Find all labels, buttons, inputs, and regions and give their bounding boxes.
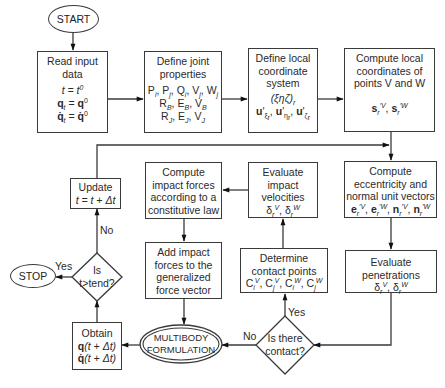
obtain-qdot: q̇(t + Δt)	[78, 352, 116, 365]
evaluate-penetrations-symbols: δrV, δrW	[374, 281, 408, 294]
compute-eccentricity-symbols: er′V, er′W, nr′V, nr′W	[351, 203, 430, 216]
define-joint-title: Define joint properties	[157, 55, 210, 80]
decision-tend-no-label: No	[100, 224, 113, 236]
compute-eccentricity-box: Compute eccentricity and normal unit vec…	[344, 161, 437, 218]
add-impact-forces-box: Add impact forces to the generalized for…	[145, 242, 222, 299]
stop-terminal: STOP	[10, 264, 56, 288]
compute-eccentricity-title: Compute eccentricity and normal unit vec…	[346, 165, 435, 203]
obtain-q: q(t + Δt)	[78, 340, 116, 353]
obtain-title: Obtain	[82, 327, 113, 340]
update-equation: t = t + Δt	[76, 194, 116, 207]
add-impact-title: Add impact forces to the generalized for…	[155, 246, 213, 296]
compute-impact-title: Compute impact forces according to a con…	[148, 166, 219, 216]
stop-label: STOP	[19, 270, 47, 282]
compute-impact-forces-box: Compute impact forces according to a con…	[145, 162, 222, 219]
define-local-symbols: (ξηζ)r u′ξr, u′ηr, u′ζr	[256, 92, 310, 118]
determine-contact-points-box: Determine contact points CiV, CjV, CiW, …	[240, 248, 328, 293]
evaluate-velocities-symbols: δrV, δrW	[266, 204, 300, 217]
decision-tend-label: Is t>tend?	[72, 264, 122, 290]
determine-contact-symbols: CiV, CjV, CiW, CjW	[246, 277, 323, 290]
evaluate-impact-velocities-box: Evaluate impact velocities δrV, δrW	[248, 162, 318, 218]
decision-contact-yes-label: Yes	[288, 306, 305, 318]
read-input-equations: t = t0 qt = q0 q̇t = q̇0	[57, 84, 88, 123]
start-terminal: START	[48, 5, 99, 33]
evaluate-penetrations-title: Evaluate penetrations	[362, 256, 420, 281]
evaluate-velocities-title: Evaluate impact velocities	[261, 166, 304, 204]
compute-local-symbols: sr′V, sr′W	[371, 102, 407, 115]
compute-local-title: Compute local coordinates of points V an…	[354, 52, 425, 90]
update-box: Update t = t + Δt	[70, 178, 121, 209]
compute-local-coordinates-box: Compute local coordinates of points V an…	[344, 48, 435, 132]
read-input-title: Read input data	[47, 55, 98, 80]
define-joint-symbols: Pi, Pj, Qi, Vj, Wj RB, EB, VB RJ, EJ, VJ	[148, 84, 218, 123]
decision-contact-no-label: No	[243, 330, 256, 342]
read-input-box: Read input data t = t0 qt = q0 q̇t = q̇0	[37, 51, 108, 133]
determine-contact-title: Determine contact points	[252, 252, 317, 277]
update-title: Update	[79, 181, 113, 194]
obtain-box: Obtain q(t + Δt) q̇(t + Δt)	[72, 322, 122, 370]
define-local-coordinate-box: Define local coordinate system (ξηζ)r u′…	[248, 48, 318, 133]
multibody-formulation-label: MULTIBODY FORMULATION	[142, 332, 220, 356]
evaluate-penetrations-box: Evaluate penetrations δrV, δrW	[345, 250, 437, 293]
define-local-title: Define local coordinate system	[256, 52, 311, 90]
decision-contact-label: Is there contact?	[256, 332, 314, 358]
decision-tend-yes-label: Yes	[55, 260, 72, 272]
define-joint-box: Define joint properties Pi, Pj, Qi, Vj, …	[144, 51, 222, 133]
start-label: START	[57, 13, 90, 25]
